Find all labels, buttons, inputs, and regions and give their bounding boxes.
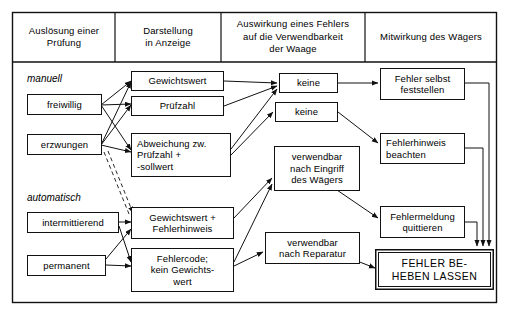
node-freiwillig[interactable]: freiwillig <box>27 94 102 115</box>
node-abweichung-label: Abweichung zw. Prüfzahl + -sollwert <box>137 138 207 173</box>
node-abweichung[interactable]: Abweichung zw. Prüfzahl + -sollwert <box>131 133 231 177</box>
column-header-ausloesung: Auslösung einer Prüfung <box>14 14 114 60</box>
node-fehler-selbst-feststellen[interactable]: Fehler selbst feststellen <box>380 68 465 100</box>
node-keine-2[interactable]: keine <box>275 102 338 122</box>
node-verwendbar-reparatur[interactable]: verwendbar nach Reparatur <box>265 232 360 264</box>
column-header-auswirkung: Auswirkung eines Fehlers auf die Verwend… <box>222 14 364 60</box>
node-fehlermeldung-quittieren[interactable]: Fehlermeldung quittieren <box>380 206 465 238</box>
node-permanent[interactable]: permanent <box>27 255 106 276</box>
node-freiwillig-label: freiwillig <box>47 99 82 111</box>
node-intermittierend-label: intermittierend <box>42 217 104 229</box>
node-keine-2-label: keine <box>295 106 318 118</box>
node-permanent-label: permanent <box>43 260 89 272</box>
column-header-ausloesung-label: Auslösung einer Prüfung <box>29 25 99 50</box>
node-keine-1-label: keine <box>297 77 320 89</box>
node-verwendbar-eingriff-label: verwendbar nach Eingriff des Wägers <box>290 151 344 186</box>
node-keine-1[interactable]: keine <box>279 73 338 93</box>
group-label-manuell: manuell <box>27 73 62 84</box>
node-fehlerhinweis-beachten-label: Fehlerhinweis beachten <box>386 137 446 160</box>
node-verwendbar-reparatur-label: verwendbar nach Reparatur <box>279 237 346 260</box>
node-gewichtswert-label: Gewichtswert <box>148 75 206 87</box>
column-header-darstellung: Darstellung in Anzeige <box>116 14 220 60</box>
node-intermittierend[interactable]: intermittierend <box>27 212 119 233</box>
column-header-auswirkung-label: Auswirkung eines Fehlers auf die Verwend… <box>237 18 349 56</box>
node-pruefzahl[interactable]: Prüfzahl <box>131 96 224 116</box>
node-fehlercode-label: Fehlercode; kein Gewichts- wert <box>151 253 215 288</box>
node-fehlermeldung-quittieren-label: Fehlermeldung quittieren <box>390 211 455 234</box>
column-header-darstellung-label: Darstellung in Anzeige <box>143 25 193 50</box>
group-label-automatisch: automatisch <box>27 192 81 203</box>
node-gewichtswert-fehlerhinweis[interactable]: Gewichtswert + Fehlerhinweis <box>131 207 234 239</box>
node-fehlerhinweis-beachten[interactable]: Fehlerhinweis beachten <box>380 133 465 164</box>
node-verwendbar-eingriff[interactable]: verwendbar nach Eingriff des Wägers <box>274 146 360 191</box>
node-erzwungen-label: erzwungen <box>41 139 88 151</box>
column-header-mitwirkung-label: Mitwirkung des Wägers <box>380 31 482 44</box>
node-fehler-beheben-lassen-label: FEHLER BE- HEBEN LASSEN <box>392 257 477 283</box>
node-pruefzahl-label: Prüfzahl <box>160 100 196 112</box>
node-gewichtswert[interactable]: Gewichtswert <box>131 71 224 91</box>
node-fehler-beheben-lassen[interactable]: FEHLER BE- HEBEN LASSEN <box>378 252 491 287</box>
node-erzwungen[interactable]: erzwungen <box>27 134 102 155</box>
node-gewichtswert-fehlerhinweis-label: Gewichtswert + Fehlerhinweis <box>149 212 216 235</box>
diagram-canvas: Auslösung einer Prüfung Darstellung in A… <box>0 0 509 320</box>
column-header-mitwirkung: Mitwirkung des Wägers <box>366 14 496 60</box>
node-fehler-selbst-feststellen-label: Fehler selbst feststellen <box>395 73 451 96</box>
node-fehlercode[interactable]: Fehlercode; kein Gewichts- wert <box>131 248 234 292</box>
